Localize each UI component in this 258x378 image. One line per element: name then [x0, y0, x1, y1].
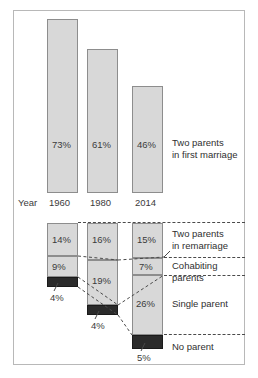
bar-label-2014-cohabiting: 7%: [139, 261, 153, 272]
legend-two-parents-remarriage: Two parents in remarriage: [172, 228, 228, 251]
bar-label-1960-cohabiting: 9%: [52, 261, 66, 272]
bar-label-1960-remarriage: 14%: [52, 234, 71, 245]
bar-label-1980-first-marriage: 61%: [92, 139, 111, 150]
bar-1960-single-parent: [47, 277, 78, 287]
legend-cohabiting-parents: Cohabiting parents: [172, 260, 217, 283]
bar-1980-first-marriage: [87, 49, 118, 193]
legend-no-parent: No parent: [172, 341, 214, 353]
bar-2014-no-parent: [132, 335, 163, 349]
legend-remarriage-line-1: Two parents: [172, 228, 228, 240]
chart-plot-area: 73% 61% 46% Two parents in first marriag…: [14, 11, 244, 364]
callout-label-1960-single-parent: 4%: [50, 292, 64, 303]
legend-line-1: Two parents: [172, 137, 237, 149]
bar-label-1980-remarriage: 16%: [92, 234, 111, 245]
callout-label-1980-single-parent: 4%: [91, 320, 105, 331]
bar-label-2014-remarriage: 15%: [137, 234, 156, 245]
chart-page: 73% 61% 46% Two parents in first marriag…: [0, 0, 258, 378]
callout-label-2014-no-parent: 5%: [137, 352, 151, 363]
bar-label-1980-cohabiting: 19%: [92, 275, 111, 286]
bar-label-1960-first-marriage: 73%: [52, 139, 71, 150]
bar-1960-first-marriage: [47, 19, 78, 193]
axis-tick-2014: 2014: [135, 197, 156, 208]
legend-cohabiting-line-2: parents: [172, 272, 217, 284]
legend-single-parent: Single parent: [172, 298, 228, 310]
axis-tick-1980: 1980: [90, 197, 111, 208]
bar-label-2014-first-marriage: 46%: [137, 139, 156, 150]
legend-two-parents-first-marriage: Two parents in first marriage: [172, 137, 237, 160]
legend-remarriage-line-2: in remarriage: [172, 240, 228, 252]
bar-1980-single-parent: [87, 305, 118, 315]
bar-label-2014-single-parent: 26%: [136, 298, 155, 309]
legend-line-2: in first marriage: [172, 149, 237, 161]
axis-tick-1960: 1960: [49, 197, 70, 208]
separator-no-parent: [164, 334, 245, 335]
axis-caption-year: Year: [18, 197, 37, 208]
leader-noparent-1980-2014: [118, 315, 132, 335]
legend-cohabiting-line-1: Cohabiting: [172, 260, 217, 272]
separator-top-remarriage: [78, 222, 245, 223]
chart-frame: 73% 61% 46% Two parents in first marriag…: [13, 10, 245, 365]
separator-cohabiting-top: [164, 257, 245, 258]
